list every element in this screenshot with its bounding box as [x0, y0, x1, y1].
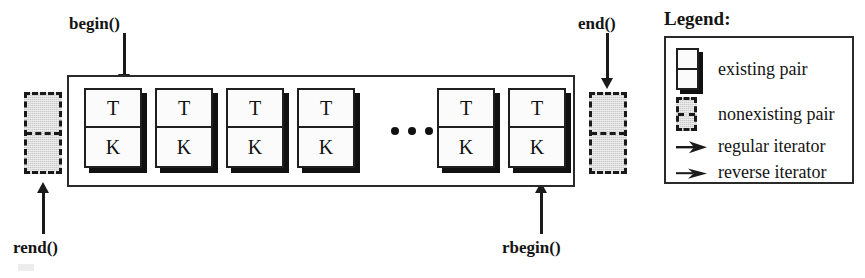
pointer-label-rbegin: rbegin() [502, 238, 561, 257]
pointer-label-end: end() [578, 14, 616, 33]
ellipsis-dot [425, 127, 433, 135]
pair-cell-type: T [510, 90, 564, 128]
pair-cell-type: T [299, 90, 353, 128]
existing-pair-4: T K [297, 88, 355, 168]
arrow-head [37, 182, 49, 193]
pair-cell-key: K [228, 128, 282, 166]
pointer-label-begin: begin() [69, 14, 120, 33]
pair-body: T K [437, 88, 495, 168]
pair-body: T K [155, 88, 213, 168]
existing-pair-5: T K [437, 88, 495, 168]
legend-label: reverse iterator [718, 162, 826, 183]
legend-label: existing pair [718, 59, 807, 80]
pair-cell-key: K [510, 128, 564, 166]
rend-arrow-up-icon [33, 182, 53, 234]
ellipsis-dot [391, 127, 399, 135]
scan-artifact [18, 264, 34, 271]
pair-cell-type: T [439, 90, 493, 128]
pair-cell-key: K [299, 128, 353, 166]
pair-divider [591, 132, 625, 135]
nonexisting-pair-icon [676, 97, 710, 131]
arrow-head [601, 78, 613, 89]
arrow-shaft [42, 192, 45, 234]
legend-item-existing-pair: existing pair [676, 48, 807, 90]
legend-label: nonexisting pair [718, 104, 834, 125]
ellipsis-dot [408, 127, 416, 135]
existing-pair-icon [676, 48, 710, 90]
pair-cell-key: K [157, 128, 211, 166]
existing-pair-6: T K [508, 88, 566, 168]
legend-item-reverse-iterator: reverse iterator [676, 162, 826, 183]
pair-body: T K [508, 88, 566, 168]
reverse-iterator-icon [676, 165, 710, 181]
pair-body: T K [297, 88, 355, 168]
pair-cell-key: K [439, 128, 493, 166]
rbegin-arrow-up-icon [531, 182, 551, 234]
existing-pair-2: T K [155, 88, 213, 168]
arrow-shaft [606, 33, 609, 79]
pair-divider [26, 132, 60, 135]
existing-pair-1: T K [84, 88, 142, 168]
pair-cell-type: T [157, 90, 211, 128]
nonexisting-pair-left [24, 92, 62, 174]
pair-cell-type: T [228, 90, 282, 128]
pair-cell-type: T [86, 90, 140, 128]
legend-title: Legend: [664, 8, 731, 30]
legend-item-regular-iterator: regular iterator [676, 136, 825, 157]
legend-box: existing pair nonexisting pair regular i… [664, 36, 854, 184]
nonexisting-pair-right [589, 92, 627, 174]
existing-pair-3: T K [226, 88, 284, 168]
diagram-canvas: begin() end() rend() rbegin() T K [0, 0, 865, 278]
pair-cell-key: K [86, 128, 140, 166]
pair-body: T K [226, 88, 284, 168]
ellipsis-icon [391, 127, 433, 135]
legend-label: regular iterator [718, 136, 825, 157]
end-arrow-down-icon [597, 33, 617, 89]
arrow-shaft [123, 33, 126, 75]
legend-item-nonexisting-pair: nonexisting pair [676, 97, 834, 131]
regular-iterator-icon [676, 139, 710, 155]
arrow-shaft [540, 192, 543, 234]
pointer-label-rend: rend() [13, 238, 58, 257]
pair-body: T K [84, 88, 142, 168]
